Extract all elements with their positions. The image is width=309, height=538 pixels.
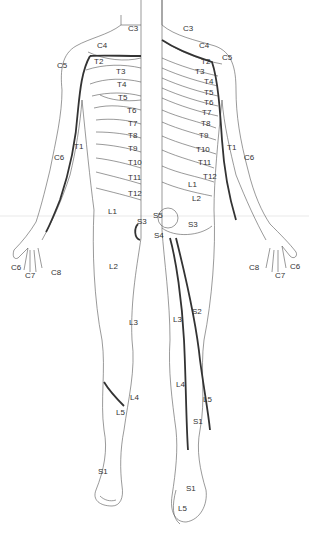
dermatome-label-r-c8-hand: C8 [249,264,259,272]
dermatome-label-l-c8-hand: C8 [51,269,61,277]
dermatome-label-r-t5: T5 [204,89,213,97]
dermatome-label-c-s5: S5 [153,212,163,220]
dermatome-label-r-s1: S1 [193,418,203,426]
dermatome-label-r-t7: T7 [202,109,211,117]
dermatome-label-l-l4: L4 [130,394,139,402]
dermatome-label-r-t3: T3 [195,68,204,76]
dermatome-label-l-l5: L5 [116,409,125,417]
dermatome-label-l-t5: T5 [118,94,127,102]
dermatome-label-l-t7: T7 [128,120,137,128]
dermatome-label-r-t6: T6 [204,99,213,107]
dermatome-label-r-t10: T10 [196,146,210,154]
dermatome-label-l-c6-hand: C6 [11,264,21,272]
dermatome-label-c-s4: S4 [154,232,164,240]
dermatome-label-l-t2: T2 [94,58,103,66]
dermatome-label-l-c4: C4 [97,42,107,50]
dermatome-label-r-c3: C3 [183,25,193,33]
dermatome-label-l-t12: T12 [128,190,142,198]
dermatome-label-l-c5: C5 [57,62,67,70]
dermatome-label-r-c7-hand: C7 [275,272,285,280]
dermatome-label-l-t8: T8 [128,132,137,140]
dermatome-label-r-t1: T1 [227,144,236,152]
dermatome-label-r-c5: C5 [222,54,232,62]
dermatome-label-r-c6: C6 [244,154,254,162]
dermatome-label-l-t10: T10 [128,159,142,167]
dermatome-label-l-s1: S1 [98,468,108,476]
dermatome-label-r-l2: L2 [192,195,201,203]
dermatome-label-l-t4: T4 [117,81,126,89]
dermatome-label-r-t12: T12 [203,173,217,181]
dermatome-label-l-t6: T6 [127,107,136,115]
dermatome-label-l-l3: L3 [129,319,138,327]
dermatome-label-r-l3: L3 [173,316,182,324]
dermatome-label-r-s2: S2 [192,308,202,316]
dermatome-label-r-l5: L5 [203,396,212,404]
dermatome-label-r-t4: T4 [204,78,213,86]
dermatome-label-r-c6-hand: C6 [290,263,300,271]
dermatome-label-r-l4: L4 [176,381,185,389]
dermatome-label-l-s3: S3 [137,218,147,226]
dermatome-label-r-t2: T2 [201,58,210,66]
dermatome-label-l-t11: T11 [128,174,141,182]
dermatome-label-r-l1: L1 [188,181,197,189]
body-outline-drawing [0,0,309,538]
dermatome-label-l-t9: T9 [128,145,137,153]
dermatome-label-r-s3: S3 [188,221,198,229]
dermatome-label-l-l2: L2 [109,263,118,271]
dermatome-label-l-t3: T3 [116,68,125,76]
dermatome-label-r-t8: T8 [201,120,210,128]
dermatome-label-r-t11: T11 [198,159,211,167]
dermatome-label-l-c3: C3 [128,25,138,33]
dermatome-label-r-l5-foot: L5 [178,505,187,513]
dermatome-label-r-t9: T9 [199,132,208,140]
dermatome-diagram: C3C3C4C4C5C5T2T2T3T3T4T4T5T5T6T6T7T7T8T8… [0,0,309,538]
dermatome-label-l-c7-hand: C7 [25,272,35,280]
dermatome-label-l-l1: L1 [108,208,117,216]
dermatome-label-l-t1: T1 [74,143,83,151]
dermatome-label-r-s1-foot: S1 [186,485,196,493]
dermatome-label-l-c6: C6 [54,154,64,162]
dermatome-label-r-c4: C4 [199,42,209,50]
